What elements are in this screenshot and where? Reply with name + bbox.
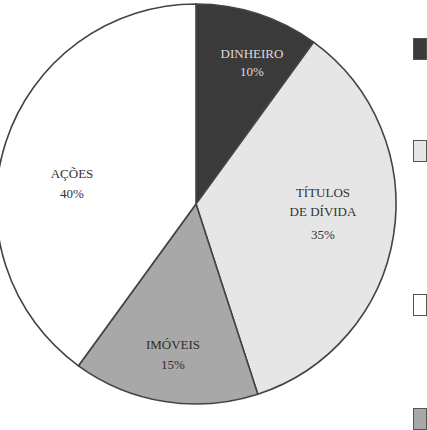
label-titulos-line2: DE DÍVIDA <box>290 204 357 219</box>
label-imoveis-pct: 15% <box>161 357 185 372</box>
legend-swatch-acoes <box>413 294 427 316</box>
legend-swatch-imoveis <box>413 408 427 430</box>
label-acoes-pct: 40% <box>60 186 84 201</box>
label-dinheiro-pct: 10% <box>240 64 264 79</box>
label-titulos-line1: TÍTULOS <box>296 185 350 200</box>
label-dinheiro-name: DINHEIRO <box>221 46 284 61</box>
legend-swatch-dinheiro <box>413 38 427 60</box>
legend-swatch-titulos <box>413 140 427 162</box>
label-imoveis-name: IMÓVEIS <box>146 337 200 352</box>
label-acoes-name: AÇÕES <box>51 166 94 181</box>
label-titulos-pct: 35% <box>311 227 335 242</box>
